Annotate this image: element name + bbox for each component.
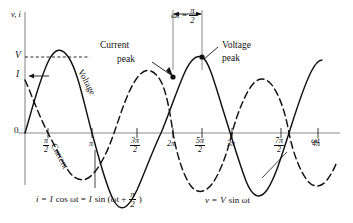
voltage-equation: v = V sin ωt bbox=[205, 196, 250, 205]
i-level-label: I bbox=[16, 70, 19, 80]
x-tick-2pi: 2π bbox=[167, 140, 175, 148]
eq-i-amp2: I bbox=[89, 195, 92, 204]
current-peak-callout-line2: peak bbox=[117, 55, 135, 65]
tick-den: 2 bbox=[43, 146, 49, 154]
eq-i-den: 2 bbox=[129, 200, 136, 209]
origin-label: 0 bbox=[14, 126, 19, 135]
voltage-peak-callout-line2: peak bbox=[222, 54, 240, 64]
voltage-peak-callout-line1: Voltage bbox=[222, 41, 251, 51]
figure-ac-voltage-current-waveforms: v, i ωt V I 0 π2 π 3π2 2π 5π2 3π 7π2 4π … bbox=[0, 0, 353, 223]
eq-i-sin-open: sin (ωt + bbox=[95, 195, 127, 204]
eq-i-amp: I bbox=[50, 195, 53, 204]
tick-den: 2 bbox=[130, 146, 140, 154]
phase-den: 2 bbox=[189, 16, 195, 25]
x-tick-5pi-over-2: 5π2 bbox=[195, 137, 205, 155]
eq-i-close: ) bbox=[139, 195, 142, 204]
current-curve bbox=[25, 71, 336, 192]
voltage-peak-leader bbox=[204, 47, 218, 59]
x-tick-7pi-over-2: 7π2 bbox=[274, 137, 284, 155]
phase-fraction: π 2 bbox=[189, 6, 195, 25]
eq-v-lead: v = bbox=[205, 196, 217, 205]
phase-shift-annotation: ωt = π 2 bbox=[171, 6, 196, 25]
eq-v-rest: sin ωt bbox=[229, 196, 250, 205]
x-tick-pi: π bbox=[89, 140, 93, 148]
eq-v-amp: V bbox=[220, 196, 226, 205]
x-tick-3pi: 3π bbox=[227, 140, 235, 148]
tick-den: 2 bbox=[274, 146, 284, 154]
y-axis-label: v, i bbox=[11, 10, 21, 19]
x-tick-4pi: 4π bbox=[312, 140, 320, 148]
eq-i-lead: i = bbox=[36, 195, 47, 204]
phase-arrow-head-right bbox=[196, 12, 202, 17]
eq-i-fraction: π 2 bbox=[129, 190, 136, 210]
voltage-peak-dot bbox=[199, 54, 204, 59]
i-level-arrow bbox=[29, 74, 49, 79]
current-peak-callout-line1: Current bbox=[100, 41, 129, 51]
v-level-label: V bbox=[15, 51, 21, 61]
x-tick-3pi-over-2: 3π2 bbox=[130, 137, 140, 155]
phase-prefix: ωt = bbox=[171, 11, 187, 20]
eq-i-cos: cos ωt = bbox=[56, 195, 86, 204]
tick-den: 2 bbox=[195, 146, 205, 154]
current-equation: i = I cos ωt = I sin (ωt + π 2 ) bbox=[36, 190, 142, 210]
